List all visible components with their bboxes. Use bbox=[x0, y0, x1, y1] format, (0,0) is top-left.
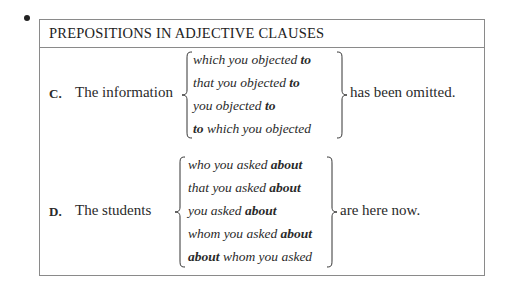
left-brace-icon bbox=[174, 155, 186, 269]
option: that you objected to bbox=[193, 71, 311, 94]
option: which you objected to bbox=[193, 48, 311, 71]
option: you objected to bbox=[193, 94, 311, 117]
example-lead: The students bbox=[75, 202, 151, 219]
grammar-chart-box: PREPOSITIONS IN ADJECTIVE CLAUSES C. The… bbox=[39, 19, 485, 276]
option: that you asked about bbox=[188, 176, 312, 199]
option: to which you objected bbox=[193, 117, 311, 140]
example-tail: has been omitted. bbox=[350, 84, 455, 101]
example-tail: are here now. bbox=[340, 202, 420, 219]
chart-title: PREPOSITIONS IN ADJECTIVE CLAUSES bbox=[49, 25, 324, 42]
right-brace-icon bbox=[336, 50, 348, 140]
example-d: D. The students who you asked about that… bbox=[40, 153, 484, 273]
bullet-icon bbox=[24, 15, 30, 21]
option-list: who you asked about that you asked about… bbox=[188, 153, 312, 268]
chart-header: PREPOSITIONS IN ADJECTIVE CLAUSES bbox=[40, 20, 484, 48]
right-brace-icon bbox=[326, 155, 338, 269]
option: you asked about bbox=[188, 199, 312, 222]
option: who you asked about bbox=[188, 153, 312, 176]
example-lead: The information bbox=[75, 84, 173, 101]
example-letter: C. bbox=[49, 86, 62, 102]
example-c: C. The information which you objected to… bbox=[40, 48, 484, 143]
example-letter: D. bbox=[49, 204, 62, 220]
option: about whom you asked bbox=[188, 245, 312, 268]
option: whom you asked about bbox=[188, 222, 312, 245]
option-list: which you objected to that you objected … bbox=[193, 48, 311, 140]
left-brace-icon bbox=[181, 50, 193, 140]
